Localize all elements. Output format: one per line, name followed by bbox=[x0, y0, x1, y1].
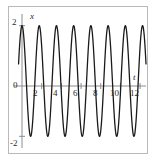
x-tick-label-2: 2 bbox=[33, 89, 38, 98]
y-tick-label-zero: 0 bbox=[13, 81, 18, 90]
y-axis-label: x bbox=[30, 12, 34, 21]
x-tick-label-12: 12 bbox=[130, 89, 139, 98]
x-tick-label-8: 8 bbox=[93, 89, 98, 98]
x-tick-label-10: 10 bbox=[110, 89, 119, 98]
waveform-curve bbox=[19, 26, 146, 137]
x-axis-label: t bbox=[133, 73, 136, 82]
y-tick-label-bottom: -2 bbox=[10, 139, 18, 148]
axes-group bbox=[14, 14, 146, 148]
x-tick-label-4: 4 bbox=[53, 89, 58, 98]
chart-figure: 2 0 -2 2 4 6 8 10 12 x t bbox=[0, 0, 157, 160]
y-tick-label-top: 2 bbox=[12, 18, 17, 27]
x-tick-label-6: 6 bbox=[73, 89, 78, 98]
